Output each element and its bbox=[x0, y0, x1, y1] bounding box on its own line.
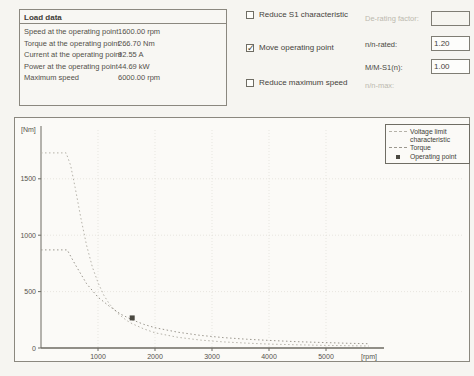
svg-text:4000: 4000 bbox=[261, 353, 277, 360]
svg-text:2000: 2000 bbox=[147, 353, 163, 360]
row-label: Torque at the operating point bbox=[20, 39, 114, 48]
legend-label: Voltage limit characteristic bbox=[410, 128, 466, 143]
row-value: 266.70 Nm bbox=[114, 39, 155, 48]
legend-label: Operating point bbox=[410, 153, 456, 161]
m-m-s1-input[interactable] bbox=[431, 59, 470, 74]
table-row: Torque at the operating point266.70 Nm bbox=[20, 38, 226, 50]
svg-text:0: 0 bbox=[32, 345, 36, 352]
svg-text:1000: 1000 bbox=[90, 353, 106, 360]
row-label: Maximum speed bbox=[20, 73, 114, 82]
reduce-max-speed-checkbox[interactable] bbox=[246, 79, 254, 87]
table-row: Power at the operating point44.69 kW bbox=[20, 61, 226, 73]
n-n-rated-label: n/n-rated: bbox=[365, 40, 397, 49]
svg-text:5000: 5000 bbox=[318, 353, 334, 360]
table-row: Current at the operating point92.55 A bbox=[20, 49, 226, 61]
move-operating-point-checkbox[interactable]: ✓ bbox=[246, 44, 254, 52]
row-label: Power at the operating point bbox=[20, 62, 114, 71]
move-operating-point-label: Move operating point bbox=[259, 43, 334, 52]
options-panel: Reduce S1 characteristic De-rating facto… bbox=[240, 0, 474, 110]
operating-point-marker-icon bbox=[396, 155, 400, 159]
load-data-table: Load data Speed at the operating point16… bbox=[19, 9, 227, 106]
table-row: Maximum speed6000.00 rpm bbox=[20, 72, 226, 84]
sizing-dialog: Load data Speed at the operating point16… bbox=[0, 0, 474, 376]
legend-label: Torque bbox=[410, 144, 431, 152]
legend-entry: Torque bbox=[389, 144, 466, 152]
row-value: 92.55 A bbox=[114, 50, 143, 59]
row-value: 44.69 kW bbox=[114, 62, 150, 71]
row-label: Current at the operating point bbox=[20, 50, 114, 59]
svg-text:[Nm]: [Nm] bbox=[21, 126, 36, 134]
svg-text:500: 500 bbox=[24, 288, 36, 295]
dashed-line-icon bbox=[389, 147, 407, 148]
load-data-title: Load data bbox=[20, 10, 226, 24]
reduce-s1-checkbox[interactable] bbox=[246, 11, 254, 19]
chart-legend: Voltage limit characteristicTorqueOperat… bbox=[385, 124, 470, 164]
svg-text:1000: 1000 bbox=[20, 232, 36, 239]
dashed-line-icon bbox=[389, 131, 407, 132]
table-row: Speed at the operating point1600.00 rpm bbox=[20, 26, 226, 38]
reduce-s1-label: Reduce S1 characteristic bbox=[259, 10, 348, 19]
derating-factor-label: De-rating factor: bbox=[365, 14, 419, 23]
svg-text:[rpm]: [rpm] bbox=[361, 353, 377, 361]
legend-entry: Operating point bbox=[389, 153, 466, 161]
row-value: 1600.00 rpm bbox=[114, 27, 160, 36]
row-value: 6000.00 rpm bbox=[114, 73, 160, 82]
derating-factor-input[interactable] bbox=[431, 11, 470, 26]
load-data-rows: Speed at the operating point1600.00 rpmT… bbox=[20, 24, 226, 84]
n-n-max-label: n/n-max: bbox=[365, 81, 394, 90]
n-n-rated-input[interactable] bbox=[431, 36, 470, 51]
reduce-max-speed-label: Reduce maximum speed bbox=[259, 78, 347, 87]
svg-text:1500: 1500 bbox=[20, 175, 36, 182]
row-label: Speed at the operating point bbox=[20, 27, 114, 36]
svg-text:3000: 3000 bbox=[204, 353, 220, 360]
legend-entry: Voltage limit characteristic bbox=[389, 128, 466, 143]
torque-speed-chart-panel: 050010001500[Nm]10002000300040005000[rpm… bbox=[14, 117, 470, 362]
m-m-s1-label: M/M-S1(n): bbox=[365, 63, 403, 72]
